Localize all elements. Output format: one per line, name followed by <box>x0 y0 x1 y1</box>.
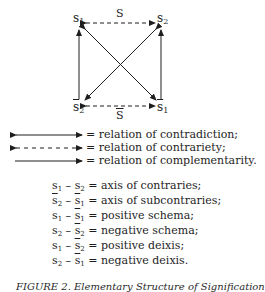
double-dashed-arrow-icon <box>8 144 84 152</box>
definition-row: s2 – s1 = axis of subcontraries; <box>52 193 221 208</box>
node-s1-bar: s1 <box>157 101 168 117</box>
arrow-legend: = relation of contradiction; = relation … <box>8 128 237 167</box>
node-s1: s1 <box>73 12 84 28</box>
axis-definitions: s1 – s2 = axis of contraries; s2 – s1 = … <box>52 178 221 268</box>
definition-row: s2 – s2 = negative schema; <box>52 223 221 238</box>
double-solid-arrow-icon <box>8 131 84 139</box>
definition-row: s1 – s2 = positive deixis; <box>52 238 221 253</box>
figure-caption: FIGURE 2. Elementary Structure of Signif… <box>16 281 265 292</box>
definition-row: s2 – s1 = negative deixis. <box>52 253 221 268</box>
node-s2-bar: s2 <box>73 101 84 117</box>
definition-row: s1 – s1 = positive schema; <box>52 208 221 223</box>
semiotic-square: s1 s2 s2 s1 S S <box>0 0 237 125</box>
label-S-top: S <box>116 7 124 20</box>
legend-complementarity: = relation of complementarity. <box>8 154 237 167</box>
single-solid-arrow-icon <box>8 157 84 165</box>
legend-contrariety: = relation of contrariety; <box>8 141 237 154</box>
legend-contradiction: = relation of contradiction; <box>8 128 237 141</box>
label-S-bar-bottom: S <box>116 109 124 122</box>
node-s2: s2 <box>157 12 168 28</box>
definition-row: s1 – s2 = axis of contraries; <box>52 178 221 193</box>
